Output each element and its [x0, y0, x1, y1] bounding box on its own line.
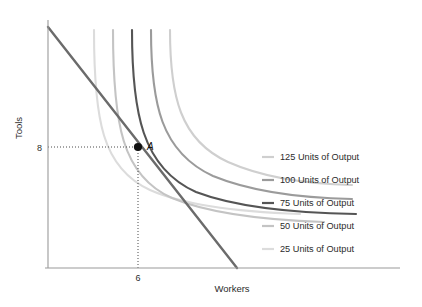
x-axis-label: Workers — [214, 283, 249, 294]
isoquant-chart: A Tools Workers 8 6 125 Units of Output … — [0, 0, 422, 307]
legend-item-75: 75 Units of Output — [262, 198, 354, 208]
isoquant-curve-25 — [94, 30, 300, 214]
legend: 125 Units of Output 100 Units of Output … — [262, 152, 360, 254]
isoquant-curve-50 — [113, 30, 324, 222]
isocost-line — [48, 27, 237, 268]
tangency-point-marker — [134, 143, 142, 151]
legend-item-125: 125 Units of Output — [262, 152, 360, 162]
tangency-point-label: A — [146, 141, 154, 152]
legend-label-100: 100 Units of Output — [280, 175, 360, 185]
isoquant-curve-group — [94, 30, 356, 222]
y-axis-tick-8: 8 — [37, 143, 42, 153]
legend-item-50: 50 Units of Output — [262, 221, 354, 231]
x-axis-tick-6: 6 — [135, 273, 140, 283]
legend-label-125: 125 Units of Output — [280, 152, 360, 162]
chart-canvas: A Tools Workers 8 6 125 Units of Output … — [0, 0, 422, 307]
legend-label-25: 25 Units of Output — [280, 244, 354, 254]
legend-label-50: 50 Units of Output — [280, 221, 354, 231]
y-axis-label: Tools — [13, 117, 24, 139]
legend-item-25: 25 Units of Output — [262, 244, 354, 254]
legend-label-75: 75 Units of Output — [280, 198, 354, 208]
